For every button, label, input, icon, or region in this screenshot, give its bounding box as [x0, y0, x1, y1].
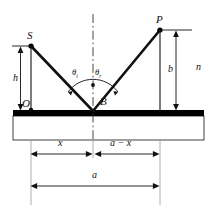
label-point-P: P — [156, 14, 163, 25]
label-dimension-a: a — [92, 170, 97, 180]
normal-vertex-dot — [91, 83, 95, 87]
label-dimension-x: x — [58, 138, 62, 148]
label-medium-n: n — [196, 62, 201, 72]
label-dimension-b: b — [168, 64, 173, 74]
theta-i-subscript: i — [76, 73, 77, 79]
label-point-B: B — [100, 96, 107, 107]
label-dimension-h: h — [13, 73, 18, 83]
glass-slab — [13, 116, 204, 140]
label-angle-reflection: θr — [95, 68, 101, 79]
label-point-S: S — [27, 30, 33, 41]
mirror-surface — [13, 110, 204, 116]
theta-r-subscript: r — [99, 73, 101, 79]
label-angle-incidence: θi — [72, 68, 78, 79]
label-dimension-a-minus-x: a − x — [110, 138, 131, 148]
label-point-O: O — [22, 98, 30, 109]
